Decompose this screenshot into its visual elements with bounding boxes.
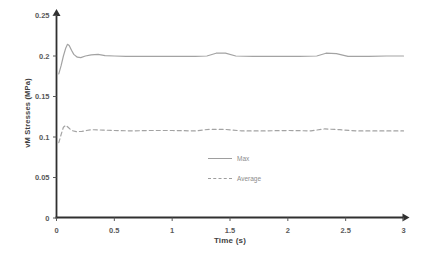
y-axis-title: vM Stresses (MPa) — [23, 78, 32, 148]
series-line-average — [59, 125, 404, 142]
x-tick-label: 1.5 — [225, 226, 235, 235]
legend-item-average: Average — [208, 175, 261, 182]
x-tick-label: 1 — [170, 226, 174, 235]
x-axis-title: Time (s) — [56, 236, 404, 245]
x-tick-label: 0.5 — [109, 226, 119, 235]
legend-item-max: Max — [208, 155, 261, 162]
y-tick-label: 0.15 — [35, 92, 50, 101]
y-tick-label: 0 — [45, 214, 49, 223]
y-tick-label: 0.1 — [39, 133, 49, 142]
legend-label-average: Average — [237, 175, 261, 182]
x-tick-label: 0 — [54, 226, 58, 235]
y-tick-label: 0.2 — [39, 52, 49, 61]
stress-line-chart: 00.511.522.5300.050.10.150.20.25 vM Stre… — [0, 0, 426, 261]
legend-label-max: Max — [237, 155, 249, 162]
legend: Max Average — [208, 155, 261, 182]
y-tick-label: 0.25 — [35, 11, 50, 20]
x-tick-label: 3 — [401, 226, 405, 235]
line-chart-svg: 00.511.522.5300.050.10.150.20.25 — [0, 0, 426, 261]
average-dashed-line-sample — [208, 178, 232, 179]
x-tick-label: 2 — [286, 226, 290, 235]
x-tick-label: 2.5 — [340, 226, 350, 235]
max-solid-line-sample — [208, 158, 232, 159]
y-tick-label: 0.05 — [35, 173, 50, 182]
series-line-max — [59, 44, 404, 74]
y-axis-arrowhead — [53, 9, 61, 16]
